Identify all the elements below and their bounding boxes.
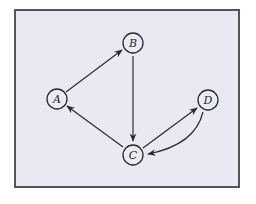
edge-c-to-a xyxy=(67,106,123,147)
node-a: A xyxy=(47,89,67,109)
node-d: D xyxy=(198,90,218,110)
edge-c-to-d xyxy=(143,108,197,148)
node-a-label: A xyxy=(52,93,61,106)
node-b: B xyxy=(123,33,143,53)
edge-d-to-c xyxy=(148,112,203,154)
node-c-label: C xyxy=(129,149,138,162)
node-b-label: B xyxy=(128,37,137,50)
node-c: C xyxy=(123,145,143,165)
node-d-label: D xyxy=(203,94,213,107)
edge-a-to-b xyxy=(66,50,122,92)
graph-canvas: A B C D xyxy=(0,0,256,204)
